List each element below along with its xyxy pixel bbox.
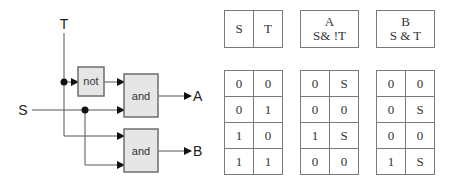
table-row: 00	[301, 97, 359, 123]
a-table: 0S 00 1S 00	[300, 70, 359, 175]
cell: 0	[377, 97, 406, 123]
wire-s-to-and-b	[85, 110, 124, 165]
table-row: 1S	[301, 123, 359, 149]
cell: 1	[254, 97, 283, 123]
table-row: 01	[225, 97, 283, 123]
cell: 0	[225, 71, 254, 97]
output-b-label: B	[193, 143, 202, 159]
and-gate-b-label: and	[132, 145, 150, 157]
table-row: 0S	[301, 71, 359, 97]
inputs-table: 00 01 10 11	[224, 70, 283, 175]
header-a-expr: S& !T	[301, 29, 358, 43]
cell: 1	[225, 149, 254, 175]
cell: 0	[254, 71, 283, 97]
table-row: 0S	[377, 97, 435, 123]
cell: 0	[330, 97, 359, 123]
table-row: 00	[377, 71, 435, 97]
cell: 0	[377, 123, 406, 149]
junction-dot-s	[82, 107, 89, 114]
table-row: 10	[225, 123, 283, 149]
cell: S	[406, 149, 435, 175]
cell: 0	[406, 71, 435, 97]
and-gate-a: and	[124, 74, 158, 117]
table-row: 00	[377, 123, 435, 149]
cell: 1	[225, 123, 254, 149]
cell: 1	[301, 123, 330, 149]
cell: S	[406, 97, 435, 123]
header-b-cell: B S & T	[377, 11, 435, 48]
header-a-title: A	[301, 15, 358, 29]
cell: 0	[406, 123, 435, 149]
cell: 0	[254, 123, 283, 149]
and-gate-a-label: and	[132, 90, 150, 102]
cell: 0	[225, 97, 254, 123]
table-row: 1S	[377, 149, 435, 175]
cell: 0	[301, 149, 330, 175]
junction-dot-t	[61, 79, 68, 86]
table-row: 11	[225, 149, 283, 175]
cell: 0	[301, 71, 330, 97]
cell: 0	[377, 71, 406, 97]
header-b: B S & T	[376, 10, 435, 48]
input-s-label: S	[18, 102, 27, 118]
cell: 1	[254, 149, 283, 175]
cell: 0	[301, 97, 330, 123]
header-a-cell: A S& !T	[301, 11, 359, 48]
cell: 1	[377, 149, 406, 175]
header-s: S	[225, 11, 254, 48]
b-table: 00 0S 00 1S	[376, 70, 435, 175]
header-a: A S& !T	[300, 10, 359, 48]
not-gate: not	[78, 67, 104, 96]
input-t-label: T	[60, 16, 69, 32]
table-row: 00	[225, 71, 283, 97]
output-a-label: A	[193, 88, 203, 104]
cell: S	[330, 71, 359, 97]
cell: S	[330, 123, 359, 149]
table-row: 00	[301, 149, 359, 175]
header-b-expr: S & T	[377, 29, 434, 43]
and-gate-b: and	[124, 129, 158, 172]
circuit-diagram: not and and T S A B	[0, 0, 220, 189]
header-t: T	[254, 11, 283, 48]
header-b-title: B	[377, 15, 434, 29]
cell: 0	[330, 149, 359, 175]
not-gate-label: not	[83, 75, 98, 87]
header-inputs: S T	[224, 10, 283, 48]
